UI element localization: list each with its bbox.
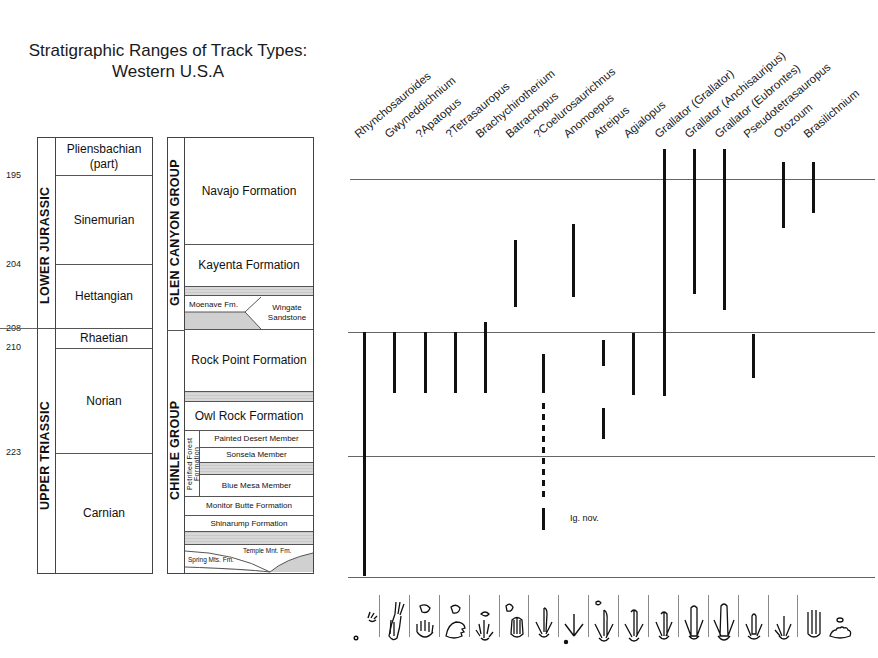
- footprint-brachychirotherium-icon: [472, 600, 498, 650]
- age-label-195: 195: [6, 170, 21, 180]
- icon-separator: [528, 595, 529, 637]
- period-upper-triassic: UPPER TRIASSIC: [38, 370, 55, 540]
- boundary-line-208: [348, 332, 875, 333]
- icon-separator: [379, 595, 380, 637]
- icon-separator: [797, 595, 798, 637]
- footprint-pseudotetrasauropus-icon: [741, 600, 767, 650]
- range-bar-gwyneddichnium: [393, 332, 396, 393]
- boundary-line-195: [350, 179, 875, 180]
- range-bar-pseudotetrasauropus: [752, 334, 755, 378]
- chart-title: Stratigraphic Ranges of Track Types: Wes…: [18, 40, 318, 82]
- footprint-apatopus-icon: [412, 600, 438, 650]
- formation-kayenta: Kayenta Formation: [185, 245, 313, 287]
- group-glen-canyon: GLEN CANYON GROUP: [168, 145, 184, 320]
- range-bar-tetrasauropus: [454, 332, 457, 393]
- stage-pliensbachian: Pliensbachian (part): [56, 138, 152, 176]
- footprint-anomoepus-icon: [561, 600, 587, 650]
- range-bar-coelurosaurichnus-lower: [542, 508, 545, 530]
- age-label-204: 204: [6, 259, 21, 269]
- hiatus-shading: [185, 392, 313, 402]
- hiatus-shading: [185, 287, 313, 296]
- range-bar-atreipus-lower: [602, 408, 605, 439]
- member-blue-mesa: Blue Mesa Member: [200, 475, 313, 497]
- footprint-extra-icon: [826, 600, 856, 650]
- range-bar-grallator-anchisauripus: [693, 149, 696, 294]
- temple-spring-block: Temple Mnt. Fm. Spring Mts. Fm.: [185, 545, 313, 573]
- footprint-otozoum-icon: [771, 600, 797, 650]
- member-sonsela: Sonsela Member: [200, 448, 313, 463]
- footprint-coelurosaurichnus-icon: [531, 600, 557, 650]
- boundary-line-223: [348, 456, 875, 457]
- icon-separator: [499, 595, 500, 637]
- range-bar-brasilichnium: [812, 162, 815, 213]
- range-bar-grallator-eubrontes: [723, 149, 726, 310]
- formation-owl-rock: Owl Rock Formation: [185, 402, 313, 431]
- range-bar-coelurosaurichnus-dashed: [542, 403, 545, 500]
- chart-title-line2: Western U.S.A: [18, 61, 318, 82]
- icon-separator: [618, 595, 619, 637]
- icon-separator: [409, 595, 410, 637]
- range-bar-agialopus: [632, 333, 635, 395]
- formation-monitor-butte: Monitor Butte Formation: [185, 497, 313, 516]
- range-bar-grallator-grallator: [663, 149, 666, 396]
- stage-rhaetian: Rhaetian: [56, 329, 152, 349]
- stage-sinemurian: Sinemurian: [56, 176, 152, 265]
- footprint-batrachopus-icon: [502, 600, 528, 650]
- range-bar-rhynchosauroides: [363, 332, 366, 576]
- stage-carnian: Carnian: [56, 454, 152, 573]
- range-bar-anomoepus: [572, 224, 575, 297]
- member-painted-desert: Painted Desert Member: [200, 431, 313, 448]
- stage-norian: Norian: [56, 349, 152, 454]
- group-chinle: CHINLE GROUP: [168, 380, 184, 520]
- icon-separator: [439, 595, 440, 637]
- moenave-wingate-block: Moenave Fm. Wingate Sandstone: [185, 296, 313, 330]
- icon-separator: [588, 595, 589, 637]
- age-label-223: 223: [6, 447, 21, 457]
- footprint-brasilichnium-icon: [801, 600, 827, 650]
- footprint-rhynchosauroides-icon: [352, 600, 378, 650]
- icon-separator: [738, 595, 739, 637]
- period-lower-jurassic: LOWER JURASSIC: [38, 175, 55, 315]
- chart-title-line1: Stratigraphic Ranges of Track Types:: [18, 40, 318, 61]
- age-label-210: 210: [6, 342, 21, 352]
- formation-shinarump: Shinarump Formation: [185, 516, 313, 532]
- range-bar-atreipus-upper: [602, 340, 605, 366]
- formation-wingate: Wingate Sandstone: [263, 303, 311, 323]
- formation-rock-point: Rock Point Formation: [185, 330, 313, 392]
- formation-petrified-forest: Petrified Forest Formation: [186, 433, 199, 495]
- hiatus-shading: [200, 463, 313, 475]
- footprint-anchisauripus-icon: [681, 600, 707, 650]
- footprint-eubrontes-icon: [711, 600, 737, 650]
- formation-navajo: Navajo Formation: [185, 138, 313, 245]
- hiatus-shading: [185, 532, 313, 545]
- icon-separator: [558, 595, 559, 637]
- footprint-agialopus-icon: [621, 600, 647, 650]
- stage-hettangian: Hettangian: [56, 265, 152, 329]
- footprint-gwyneddichnium-icon: [382, 600, 408, 650]
- icon-separator: [648, 595, 649, 637]
- annotation-ig-nov: Ig. nov.: [570, 513, 599, 523]
- age-tick-208: [0, 328, 37, 329]
- range-bar-brachychirotherium: [484, 322, 487, 393]
- formation-moenave: Moenave Fm.: [189, 300, 238, 309]
- footprint-tetrasauropus-icon: [442, 600, 468, 650]
- range-bar-coelurosaurichnus: [542, 354, 545, 393]
- range-bar-otozoum: [782, 162, 785, 228]
- formation-temple-mnt: Temple Mnt. Fm.: [243, 547, 291, 554]
- range-bar-apatopus: [424, 332, 427, 393]
- range-bar-batrachopus: [514, 240, 517, 307]
- icon-separator: [678, 595, 679, 637]
- divider: [167, 330, 185, 331]
- formation-spring-mts: Spring Mts. Fm.: [188, 556, 234, 563]
- icon-separator: [708, 595, 709, 637]
- footprint-grallator-icon: [651, 600, 677, 650]
- divider: [37, 328, 55, 329]
- icon-separator: [469, 595, 470, 637]
- icon-separator: [768, 595, 769, 637]
- footprint-atreipus-icon: [591, 600, 617, 650]
- boundary-line-base: [348, 577, 875, 578]
